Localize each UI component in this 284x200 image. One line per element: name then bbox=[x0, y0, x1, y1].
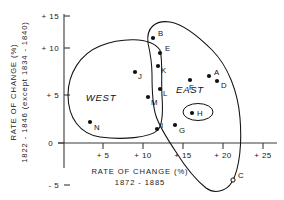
y-tick-label-neg5: - 5 bbox=[48, 181, 59, 190]
scatter-plot: + 15 + 10 + 5 0 - 5 + 5 + 10 + 15 + 20 +… bbox=[0, 0, 284, 200]
data-label-L: L bbox=[163, 89, 168, 98]
data-label-M: M bbox=[151, 98, 158, 107]
west-region-boundary bbox=[68, 40, 163, 139]
data-label-C: C bbox=[238, 171, 244, 180]
data-point-H[interactable] bbox=[190, 111, 194, 115]
data-point-A[interactable] bbox=[207, 74, 211, 78]
y-tick-label-5: + 5 bbox=[46, 91, 59, 100]
data-label-D: D bbox=[221, 81, 227, 90]
x-axis-title-line1: RATE OF CHANGE (%) bbox=[91, 167, 188, 176]
data-label-I: I bbox=[161, 121, 163, 130]
data-point-I[interactable] bbox=[155, 127, 159, 131]
data-label-E: E bbox=[165, 44, 170, 53]
data-point-B[interactable] bbox=[151, 36, 155, 40]
data-label-K: K bbox=[161, 66, 167, 75]
data-label-J: J bbox=[138, 72, 142, 81]
data-point-K[interactable] bbox=[156, 64, 160, 68]
east-region-boundary bbox=[148, 22, 241, 192]
data-label-H: H bbox=[197, 109, 203, 118]
data-point-G[interactable] bbox=[173, 123, 177, 127]
data-label-F: F bbox=[189, 83, 194, 92]
data-label-B: B bbox=[158, 29, 163, 38]
data-point-J[interactable] bbox=[133, 70, 137, 74]
chart-figure: + 15 + 10 + 5 0 - 5 + 5 + 10 + 15 + 20 +… bbox=[0, 0, 284, 200]
y-axis-title-line1: RATE OF CHANGE (%) bbox=[9, 43, 18, 140]
data-point-M[interactable] bbox=[146, 95, 150, 99]
y-tick-label-10: + 10 bbox=[42, 44, 60, 53]
data-point-F[interactable] bbox=[188, 78, 192, 82]
data-point-N[interactable] bbox=[88, 120, 92, 124]
data-point-L[interactable] bbox=[158, 87, 162, 91]
x-tick-label-10: + 10 bbox=[134, 151, 152, 160]
x-tick-label-20: + 20 bbox=[214, 151, 232, 160]
data-point-D[interactable] bbox=[215, 79, 219, 83]
data-label-N: N bbox=[94, 123, 100, 132]
y-tick-label-15: + 15 bbox=[42, 12, 60, 21]
region-label-west: WEST bbox=[86, 92, 117, 103]
x-tick-label-5: + 5 bbox=[97, 151, 110, 160]
data-point-C[interactable] bbox=[231, 178, 235, 182]
x-tick-label-15: + 15 bbox=[174, 151, 192, 160]
y-axis-title-line2: 1822 - 1846 (except 1834 - 1840) bbox=[20, 21, 29, 163]
data-label-G: G bbox=[179, 126, 185, 135]
x-axis-title-line2: 1872 - 1885 bbox=[115, 178, 165, 187]
y-tick-label-0: 0 bbox=[48, 139, 53, 148]
data-point-E[interactable] bbox=[158, 51, 162, 55]
x-tick-label-25: + 25 bbox=[254, 151, 272, 160]
data-label-A: A bbox=[214, 68, 220, 77]
